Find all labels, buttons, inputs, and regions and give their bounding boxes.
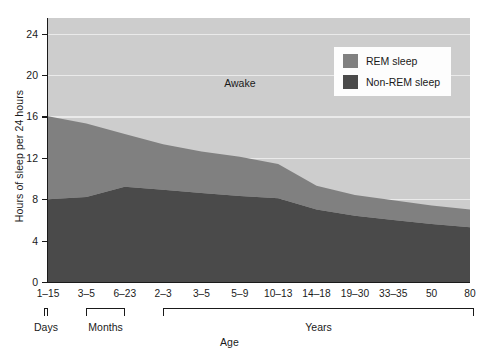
x-tick-label-9: 33–35 xyxy=(379,288,407,299)
x-tick-label-1: 3–5 xyxy=(78,288,95,299)
group-bracket-months xyxy=(86,308,124,316)
x-tick-label-0: 1–15 xyxy=(37,288,60,299)
y-tick-text: 16 xyxy=(26,110,38,122)
x-tick-label-5: 5–9 xyxy=(231,288,248,299)
y-tick-text: 20 xyxy=(26,69,38,81)
legend-item-rem-sleep: REM sleep xyxy=(343,54,440,68)
chart-legend: REM sleep Non-REM sleep xyxy=(334,47,451,96)
y-tick-text: 12 xyxy=(26,152,38,164)
x-tick-label-8: 19–30 xyxy=(341,288,369,299)
group-label-days: Days xyxy=(34,321,58,333)
group-label-months: Months xyxy=(88,321,122,333)
legend-label-rem: REM sleep xyxy=(366,55,417,67)
x-axis-line xyxy=(47,282,470,283)
awake-region-label: Awake xyxy=(224,77,255,89)
legend-swatch-rem-icon xyxy=(343,54,358,68)
y-axis-title: Hours of sleep per 24 hours xyxy=(13,51,25,261)
x-axis-title: Age xyxy=(220,336,239,348)
x-tick-label-7: 14–18 xyxy=(302,288,330,299)
y-tick-text: 24 xyxy=(26,28,38,40)
y-tick-text: 0 xyxy=(32,276,38,288)
legend-item-non-rem-sleep: Non-REM sleep xyxy=(343,75,440,89)
legend-label-non-rem: Non-REM sleep xyxy=(366,76,440,88)
group-label-years: Years xyxy=(305,321,331,333)
x-tick-label-3: 2–3 xyxy=(155,288,172,299)
non-rem-sleep-band xyxy=(48,187,470,282)
x-tick-label-10: 50 xyxy=(426,288,437,299)
sleep-stages-chart: Hours of sleep per 24 hours 04812162024 … xyxy=(0,0,483,354)
x-tick-label-2: 6–23 xyxy=(113,288,136,299)
y-tick-text: 4 xyxy=(32,235,38,247)
y-tick-text: 8 xyxy=(32,193,38,205)
x-tick-label-11: 80 xyxy=(464,288,475,299)
y-axis-line xyxy=(47,18,48,283)
legend-swatch-non-rem-icon xyxy=(343,75,358,89)
group-bracket-days xyxy=(44,308,48,316)
x-tick-label-4: 3–5 xyxy=(193,288,210,299)
group-bracket-years xyxy=(163,308,474,316)
x-tick-label-6: 10–13 xyxy=(264,288,292,299)
